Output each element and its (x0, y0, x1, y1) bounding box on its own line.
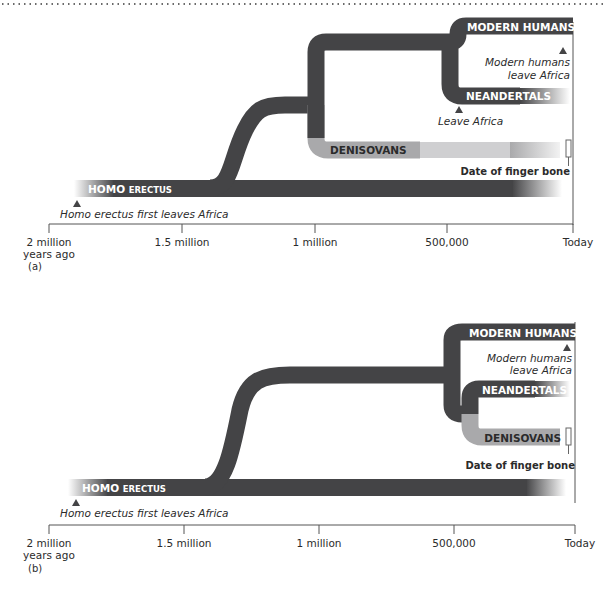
triangle-marker-icon (559, 47, 567, 54)
svg-text:years ago: years ago (23, 248, 75, 260)
modern-leave-note-2: leave Africa (508, 69, 570, 81)
homo-erectus-note-b: Homo erectus first leaves Africa (60, 507, 229, 519)
svg-text:Today: Today (564, 537, 595, 549)
finger-bone-marker-b (566, 428, 571, 445)
modern-leave-note-2-b: leave Africa (510, 364, 572, 376)
triangle-marker-icon (72, 499, 80, 506)
svg-text:Today: Today (562, 236, 593, 248)
panel-a: HOMO ERECTUS MODERN HUMANS NEANDERTALS D… (23, 21, 593, 272)
lineage-diagram: HOMO ERECTUS MODERN HUMANS NEANDERTALS D… (0, 0, 608, 590)
x-axis: 2 million years ago 1.5 million 1 millio… (23, 224, 593, 260)
leave-africa-note: Leave Africa (438, 115, 503, 127)
homo-erectus-label-b: HOMO ERECTUS (82, 482, 166, 494)
svg-text:2 million: 2 million (27, 236, 72, 248)
denisovans-label-b: DENISOVANS (484, 432, 561, 444)
denisovans-label: DENISOVANS (330, 144, 407, 156)
svg-text:1.5 million: 1.5 million (154, 236, 209, 248)
triangle-marker-icon (455, 106, 463, 113)
triangle-marker-icon (563, 344, 571, 351)
svg-text:2 million: 2 million (27, 537, 72, 549)
svg-text:1 million: 1 million (297, 537, 342, 549)
svg-text:1.5 million: 1.5 million (156, 537, 211, 549)
x-axis-b: 2 million years ago 1.5 million 1 millio… (23, 525, 595, 561)
panel-label-a: (a) (28, 261, 42, 272)
svg-text:years ago: years ago (23, 549, 75, 561)
homo-erectus-bar-b (107, 479, 527, 496)
neandertals-label-b: NEANDERTALS (482, 384, 567, 396)
homo-erectus-label: HOMO ERECTUS (88, 183, 172, 195)
panel-label-b: (b) (28, 563, 42, 574)
homo-erectus-note: Homo erectus first leaves Africa (60, 208, 229, 220)
finger-bone-note: Date of finger bone (460, 166, 570, 177)
finger-bone-note-b: Date of finger bone (465, 460, 575, 471)
modern-leave-note-1: Modern humans (485, 56, 571, 68)
modern-humans-label-b: MODERN HUMANS (469, 327, 577, 339)
neandertals-label: NEANDERTALS (466, 90, 551, 102)
homo-erectus-bar (113, 180, 513, 197)
triangle-marker-icon (73, 200, 81, 207)
finger-bone-marker (566, 140, 571, 157)
svg-text:500,000: 500,000 (432, 537, 475, 549)
modern-humans-label: MODERN HUMANS (467, 21, 575, 33)
svg-text:1 million: 1 million (293, 236, 338, 248)
modern-leave-note-1-b: Modern humans (487, 352, 573, 364)
svg-text:500,000: 500,000 (425, 236, 468, 248)
panel-b: HOMO ERECTUS MODERN HUMANS NEANDERTALS D… (23, 322, 595, 574)
